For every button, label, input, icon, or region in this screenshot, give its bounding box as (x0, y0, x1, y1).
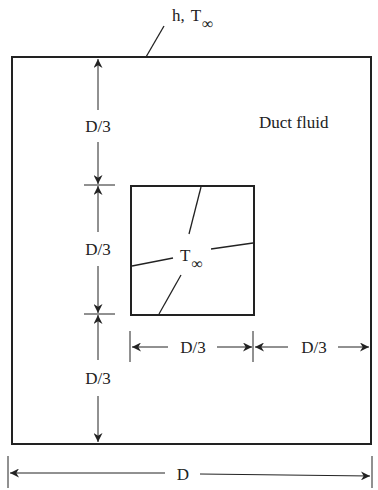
duct-diagram: h, T∞ Duct fluid T∞ D/3 D/3 D/3 D/3 D/3 … (0, 0, 378, 490)
dim-label-left-top: D/3 (85, 117, 111, 136)
overall-dimension-lines (8, 456, 372, 488)
inner-temperature-label: T∞ (180, 246, 203, 272)
duct-fluid-label: Duct fluid (259, 113, 329, 132)
dim-label-bottom-right: D/3 (301, 338, 327, 357)
dim-label-overall: D (177, 465, 189, 484)
convection-leader-line (146, 26, 164, 57)
dim-label-bottom-inner: D/3 (180, 338, 206, 357)
inner-leader-lines (132, 187, 253, 314)
dim-label-left-middle: D/3 (85, 240, 111, 259)
convection-label: h, T∞ (172, 6, 214, 32)
inner-duct-wall (131, 186, 254, 315)
dim-label-left-bottom: D/3 (85, 369, 111, 388)
inner-bottom-dimension-lines (130, 331, 369, 362)
